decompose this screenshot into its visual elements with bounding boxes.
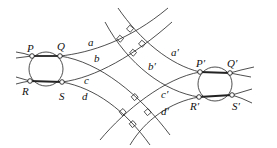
chord-R'S' — [199, 95, 232, 97]
label-b: b — [94, 52, 100, 64]
label-Q-prime: Q′ — [227, 57, 238, 69]
point-Q-prime — [228, 71, 233, 76]
label-d: d — [82, 90, 88, 102]
chord-P'Q' — [200, 72, 230, 73]
label-b-prime: b′ — [148, 60, 157, 72]
curve-b-prime — [100, 72, 200, 140]
point-R-prime — [197, 95, 202, 100]
geometry-diagram: P Q R S P′ Q′ R′ S′ a b c d a′ b′ c′ d′ — [0, 0, 277, 148]
curve-c — [62, 22, 172, 82]
label-a-prime: a′ — [171, 46, 180, 58]
label-S: S — [59, 90, 65, 102]
point-R — [28, 79, 33, 84]
point-Q — [58, 54, 63, 59]
label-P: P — [26, 42, 34, 54]
label-c: c — [84, 74, 89, 86]
label-R-prime: R′ — [189, 100, 200, 112]
label-a: a — [88, 36, 94, 48]
chord-RS — [30, 81, 62, 82]
curve-a-prime — [118, 8, 200, 72]
label-Q: Q — [57, 40, 65, 52]
label-S-prime: S′ — [232, 100, 241, 112]
point-S-prime — [230, 93, 235, 98]
label-c-prime: c′ — [161, 88, 169, 100]
point-P-prime — [198, 70, 203, 75]
label-R: R — [21, 85, 29, 97]
label-d-prime: d′ — [161, 105, 170, 117]
label-P-prime: P′ — [195, 57, 206, 69]
point-S — [60, 80, 65, 85]
point-P — [30, 54, 35, 59]
curve-a — [60, 8, 168, 56]
